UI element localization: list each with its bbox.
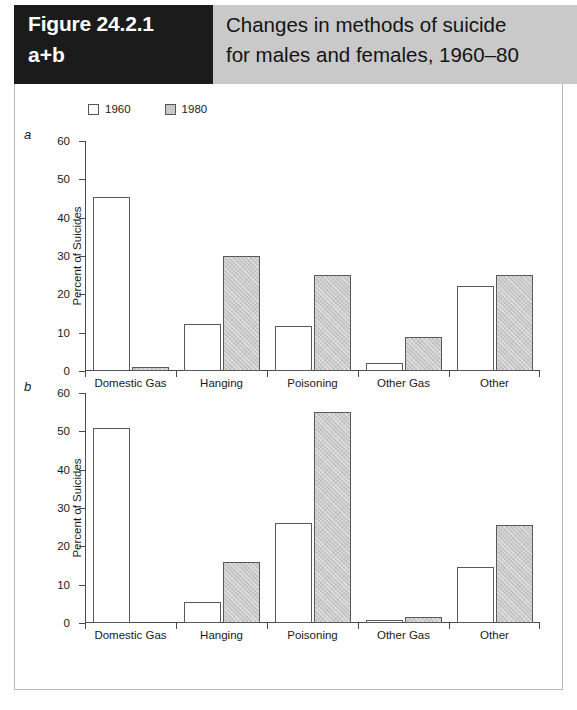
- y-tick-label-a-20: 20: [57, 288, 70, 300]
- y-tick-label-a-10: 10: [57, 327, 70, 339]
- chart-legend: 1960 1980: [88, 103, 207, 115]
- bar-group-b-4: Other: [449, 393, 540, 623]
- panel-b-letter: b: [24, 379, 31, 394]
- bar-a-1-1960: [184, 324, 221, 371]
- bar-group-b-0: Domestic Gas: [85, 393, 176, 623]
- bar-group-a-4: Other: [449, 141, 540, 371]
- bar-a-4-1980: [496, 275, 533, 371]
- bar-b-3-1960: [366, 620, 403, 623]
- x-tick-b-0: [85, 623, 86, 629]
- bar-group-a-1: Hanging: [176, 141, 267, 371]
- y-tick-label-b-0: 0: [64, 617, 70, 629]
- bar-a-1-1980: [223, 256, 260, 371]
- x-tick-b-4: [449, 623, 450, 629]
- figure-title: Changes in methods of suicide for males …: [226, 10, 571, 70]
- y-tick-label-b-60: 60: [57, 387, 70, 399]
- bar-group-b-2: Poisoning: [267, 393, 358, 623]
- plot-area-a: Percent of Suicides 0102030405060Domesti…: [85, 141, 540, 371]
- bar-b-1-1960: [184, 602, 221, 623]
- legend-item-1960: 1960: [88, 103, 131, 115]
- y-tick-label-a-0: 0: [64, 365, 70, 377]
- y-tick-label-b-20: 20: [57, 540, 70, 552]
- x-tick-a-3: [358, 371, 359, 377]
- x-tick-b-end: [539, 623, 540, 629]
- x-tick-a-end: [539, 371, 540, 377]
- bar-b-2-1980: [314, 412, 351, 623]
- chart-panel-a: a Percent of Suicides 0102030405060Domes…: [0, 133, 577, 388]
- panel-a-letter: a: [24, 127, 31, 142]
- y-tick-label-a-50: 50: [57, 173, 70, 185]
- legend-label-1960: 1960: [105, 103, 131, 115]
- figure-header: Figure 24.2.1 a+b Changes in methods of …: [14, 5, 577, 84]
- x-axis-label-b-1: Hanging: [200, 629, 243, 641]
- y-tick-label-b-40: 40: [57, 464, 70, 476]
- figure-number-suffix: a+b: [28, 43, 65, 67]
- x-tick-b-3: [358, 623, 359, 629]
- bar-b-4-1980: [496, 525, 533, 623]
- x-axis-label-b-0: Domestic Gas: [94, 629, 166, 641]
- x-tick-b-1: [176, 623, 177, 629]
- legend-swatch-1960-icon: [88, 104, 99, 115]
- plot-area-b: Percent of Suicides 0102030405060Domesti…: [85, 393, 540, 623]
- bar-a-2-1960: [275, 326, 312, 371]
- y-tick-label-b-50: 50: [57, 425, 70, 437]
- bar-a-3-1980: [405, 337, 442, 372]
- bar-group-b-1: Hanging: [176, 393, 267, 623]
- x-tick-a-0: [85, 371, 86, 377]
- figure-title-line-2: for males and females, 1960–80: [226, 40, 571, 70]
- x-tick-a-4: [449, 371, 450, 377]
- x-axis-label-b-3: Other Gas: [377, 629, 430, 641]
- y-tick-label-a-30: 30: [57, 250, 70, 262]
- figure-title-line-1: Changes in methods of suicide: [226, 10, 571, 40]
- x-axis-label-b-4: Other: [480, 629, 509, 641]
- chart-panel-b: b Percent of Suicides 0102030405060Domes…: [0, 385, 577, 645]
- legend-swatch-1980-icon: [165, 104, 176, 115]
- bar-group-a-2: Poisoning: [267, 141, 358, 371]
- bar-a-0-1980: [132, 367, 169, 371]
- bar-a-4-1960: [457, 286, 494, 371]
- figure-number: Figure 24.2.1: [28, 12, 154, 36]
- y-tick-label-b-10: 10: [57, 579, 70, 591]
- bar-group-a-0: Domestic Gas: [85, 141, 176, 371]
- bar-b-4-1960: [457, 567, 494, 623]
- legend-item-1980: 1980: [165, 103, 208, 115]
- bar-b-1-1980: [223, 562, 260, 623]
- x-axis-label-b-2: Poisoning: [287, 629, 338, 641]
- bar-a-3-1960: [366, 363, 403, 371]
- bar-group-b-3: Other Gas: [358, 393, 449, 623]
- y-tick-label-a-60: 60: [57, 135, 70, 147]
- y-tick-label-a-40: 40: [57, 212, 70, 224]
- bar-a-2-1980: [314, 275, 351, 371]
- x-tick-a-2: [267, 371, 268, 377]
- bar-b-3-1980: [405, 617, 442, 623]
- legend-label-1980: 1980: [182, 103, 208, 115]
- x-tick-b-2: [267, 623, 268, 629]
- bar-group-a-3: Other Gas: [358, 141, 449, 371]
- bar-b-0-1960: [93, 428, 130, 624]
- y-tick-label-b-30: 30: [57, 502, 70, 514]
- x-tick-a-1: [176, 371, 177, 377]
- bar-b-2-1960: [275, 523, 312, 623]
- bar-a-0-1960: [93, 197, 130, 371]
